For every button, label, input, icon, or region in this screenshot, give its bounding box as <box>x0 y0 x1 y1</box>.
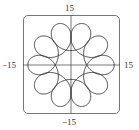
parametric-plot <box>0 0 139 130</box>
y-min-label: −15 <box>62 118 76 127</box>
x-min-label: −15 <box>2 61 16 70</box>
y-max-label: 15 <box>65 4 74 13</box>
x-max-label: 15 <box>124 61 133 70</box>
